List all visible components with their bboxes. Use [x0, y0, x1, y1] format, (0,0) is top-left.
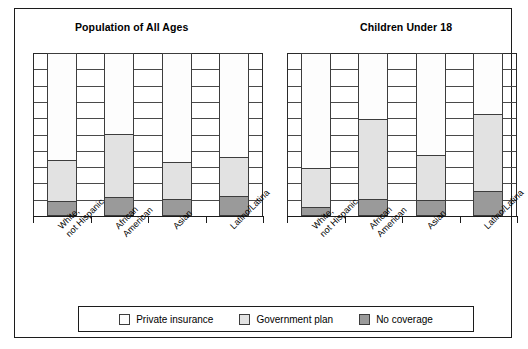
legend-item-gov[interactable]: Government plan — [239, 314, 333, 325]
bar-segment-private — [48, 54, 76, 160]
x-axis-tick — [33, 216, 34, 223]
panel-title-children: Children Under 18 — [360, 21, 452, 33]
bar-segment-gov — [48, 160, 76, 200]
bar-segment-gov — [163, 162, 191, 199]
bar-segment-private — [302, 54, 330, 168]
x-axis-tick — [460, 216, 461, 223]
x-axis-tick — [206, 216, 207, 223]
bar-african-american[interactable] — [358, 53, 388, 216]
bar-segment-private — [220, 54, 248, 157]
bar-segment-private — [105, 54, 133, 134]
legend-swatch-none — [359, 314, 370, 325]
bar-segment-gov — [302, 168, 330, 207]
bars-layer — [33, 53, 263, 216]
bar-segment-private — [163, 54, 191, 162]
plot-area-all-ages — [33, 53, 263, 216]
bar-segment-private — [474, 54, 502, 114]
figure-frame: Population of All Ages Children Under 18… — [14, 8, 512, 338]
bar-asian[interactable] — [162, 53, 192, 216]
bar-segment-private — [417, 54, 445, 155]
x-axis-tick — [263, 216, 264, 223]
legend-item-none[interactable]: No coverage — [359, 314, 433, 325]
plot-area-children — [287, 53, 517, 216]
bars-layer — [287, 53, 517, 216]
bar-segment-gov — [220, 157, 248, 196]
bar-segment-gov — [474, 114, 502, 191]
bar-white-not-hispanic[interactable] — [301, 53, 331, 216]
bar-segment-private — [359, 54, 387, 119]
legend-label-private: Private insurance — [136, 314, 213, 325]
bar-latino-latina[interactable] — [473, 53, 503, 216]
bar-african-american[interactable] — [104, 53, 134, 216]
x-axis-tick — [517, 216, 518, 223]
legend-swatch-gov — [239, 314, 250, 325]
legend-label-none: No coverage — [376, 314, 433, 325]
bar-latino-latina[interactable] — [219, 53, 249, 216]
panel-title-all-ages: Population of All Ages — [75, 21, 188, 33]
bar-segment-gov — [359, 119, 387, 199]
legend-label-gov: Government plan — [256, 314, 333, 325]
bar-white-not-hispanic[interactable] — [47, 53, 77, 216]
bar-asian[interactable] — [416, 53, 446, 216]
chart-legend: Private insuranceGovernment planNo cover… — [78, 306, 474, 332]
bar-segment-gov — [417, 155, 445, 201]
legend-swatch-private — [119, 314, 130, 325]
legend-item-private[interactable]: Private insurance — [119, 314, 213, 325]
bar-segment-gov — [105, 134, 133, 197]
x-axis-tick — [287, 216, 288, 223]
